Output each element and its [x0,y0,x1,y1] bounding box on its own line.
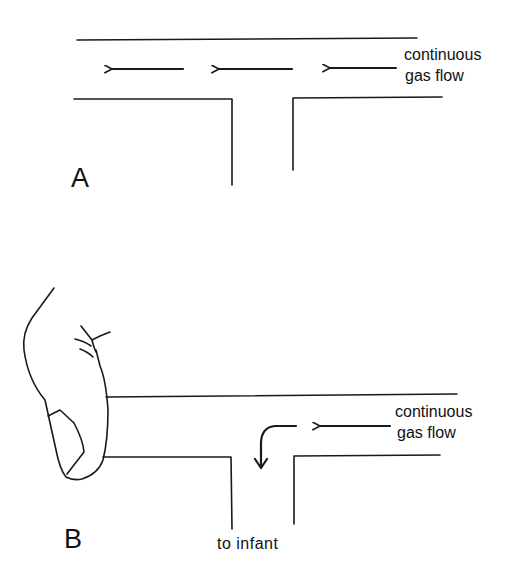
finger-outline [24,288,108,480]
flow-label-a-line2: gas flow [405,67,464,84]
fingernail [48,410,84,474]
knuckle-wrinkle-2 [80,349,93,357]
tube-b-bottom-left-wall [103,457,232,529]
panel-label-b: B [64,524,82,554]
tube-a-bottom-left-wall [74,99,232,185]
flow-label-b-line1: continuous [395,403,472,420]
tube-a-bottom-right-wall [293,97,442,170]
knuckle-wrinkle-1 [75,339,91,346]
tube-b-bottom-right-wall [294,455,440,524]
flow-arrows-b [255,426,390,468]
outlet-label-to-infant: to infant [217,535,278,552]
knuckle-wrinkle-stem [92,340,96,352]
t-piece-diagram: continuous gas flow A continuous gas flo… [0,0,529,575]
flow-label-a-line1: continuous [404,46,481,63]
knuckle-wrinkle-main [81,326,110,340]
tube-b-top-wall [106,394,457,397]
tube-a-top-wall [77,38,417,40]
panel-label-a: A [71,163,89,193]
panel-a: continuous gas flow A [71,38,481,193]
tube-a [74,38,442,185]
flow-arrows-a [112,68,396,69]
flow-label-b-line2: gas flow [397,424,456,441]
panel-b: continuous gas flow to infant B [24,288,473,554]
finger-icon [24,288,110,480]
